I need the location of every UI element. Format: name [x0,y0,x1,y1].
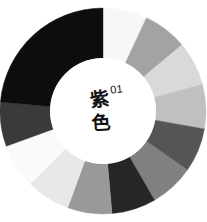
donut-center-hub [50,58,156,164]
donut-chart-svg [0,0,207,222]
color-wheel-chart: 紫01 色 [0,0,207,222]
